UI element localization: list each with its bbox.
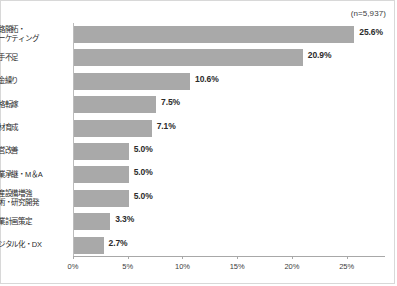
bar-row: 5.0% [74,140,385,163]
x-axis-tick [128,256,129,259]
category-label: 生産設備増強技術・研究開発 [0,189,57,208]
bar [74,26,354,43]
x-axis-tick-label: 15% [230,262,245,271]
bar [74,143,129,160]
x-axis-tick [292,256,293,259]
bar [74,237,104,254]
bar [74,49,303,66]
bar-value-label: 5.0% [134,167,153,177]
bar-row: 7.1% [74,117,385,140]
bar-value-label: 7.5% [161,97,180,107]
category-label: 価格転嫁 [0,100,57,110]
bar [74,166,129,183]
category-label: 販路開拓・マーケティング [0,25,57,44]
x-axis-tick-label: 5% [122,262,133,271]
bar-value-label: 7.1% [157,121,176,131]
bar-value-label: 25.6% [359,27,383,37]
bar-row: 3.3% [74,210,385,233]
bar-value-label: 20.9% [308,50,332,60]
category-label: 経営改善 [0,146,57,156]
category-label: デジタル化・DX [0,240,57,250]
category-label: 事業承継・M＆A [0,170,57,180]
category-label: 資金繰り [0,76,57,86]
x-axis-tick-label: 20% [284,262,299,271]
category-label: 事業計画策定 [0,217,57,227]
category-label: 人材育成 [0,123,57,133]
sample-size-annotation: (n=5,937) [351,9,386,18]
x-axis-tick-label: 10% [175,262,190,271]
bar-row: 7.5% [74,93,385,116]
bar-row: 25.6% [74,23,385,46]
plot-area: 25.6%20.9%10.6%7.5%7.1%5.0%5.0%5.0%3.3%2… [73,23,385,257]
bar [74,120,152,137]
x-axis-tick [237,256,238,259]
bar-value-label: 3.3% [115,214,134,224]
bar-row: 10.6% [74,70,385,93]
x-axis-tick-label: 25% [339,262,354,271]
x-axis-tick [73,256,74,259]
bar-row: 5.0% [74,163,385,186]
bar-row: 2.7% [74,234,385,257]
chart-container: (n=5,937) 25.6%20.9%10.6%7.5%7.1%5.0%5.0… [0,0,395,284]
bar-value-label: 5.0% [134,144,153,154]
bar-value-label: 2.7% [109,238,128,248]
bar [74,96,156,113]
bar [74,213,110,230]
bar [74,190,129,207]
x-axis-tick [347,256,348,259]
bar [74,73,190,90]
category-label: 人手不足 [0,53,57,63]
bar-value-label: 10.6% [195,74,219,84]
bar-value-label: 5.0% [134,191,153,201]
x-axis-tick-label: 0% [68,262,79,271]
x-axis-tick [182,256,183,259]
bar-row: 5.0% [74,187,385,210]
bar-row: 20.9% [74,46,385,69]
